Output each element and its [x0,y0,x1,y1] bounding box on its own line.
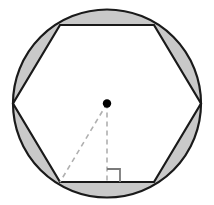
geometry-figure [0,0,214,205]
center-point-dot [103,99,111,107]
geometry-canvas [0,0,214,205]
